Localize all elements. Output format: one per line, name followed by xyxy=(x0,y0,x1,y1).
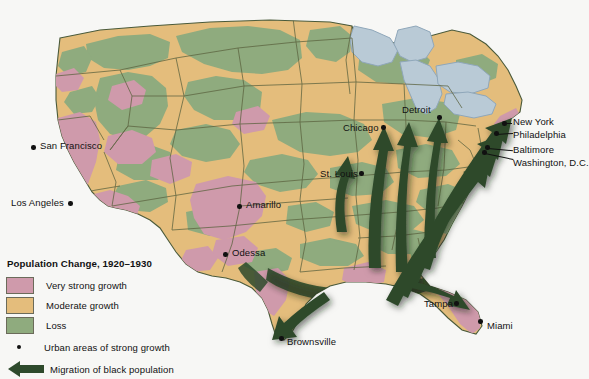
city-label-miami: Miami xyxy=(487,321,513,331)
city-dot-detroit xyxy=(437,115,442,120)
city-label-new-york: New York xyxy=(513,117,554,127)
city-label-philadelphia: Philadelphia xyxy=(513,130,566,140)
legend-row-migration: Migration of black population xyxy=(6,360,230,378)
swatch-moderate-growth xyxy=(6,297,34,314)
city-label-washington-dc: Washington, D.C. xyxy=(513,158,589,168)
city-leader-new-york xyxy=(504,123,512,124)
city-label-brownsville: Brownsville xyxy=(287,337,336,347)
city-label-odessa: Odessa xyxy=(232,248,265,258)
legend-label-urban-areas: Urban areas of strong growth xyxy=(44,342,170,353)
city-dot-chicago xyxy=(381,125,386,130)
city-label-st-louis: St. Louis xyxy=(320,169,358,179)
legend-dot-symbol xyxy=(6,345,32,350)
city-dot-st-louis xyxy=(359,171,364,176)
city-dot-amarillo xyxy=(237,204,242,209)
left-arrow-icon xyxy=(6,361,46,377)
legend-label-migration: Migration of black population xyxy=(50,364,174,375)
legend-row-urban-areas: Urban areas of strong growth xyxy=(6,338,230,356)
city-label-tampa: Tampa xyxy=(424,299,453,309)
legend-row-moderate-growth: Moderate growth xyxy=(6,296,230,314)
legend-label-moderate-growth: Moderate growth xyxy=(46,300,119,311)
legend-row-loss: Loss xyxy=(6,316,230,334)
city-label-los-angeles: Los Angeles xyxy=(11,198,64,208)
city-label-amarillo: Amarillo xyxy=(246,200,281,210)
city-label-san-francisco: San Francisco xyxy=(40,141,102,151)
legend-row-very-strong-growth: Very strong growth xyxy=(6,276,230,294)
legend-title: Population Change, 1920–1930 xyxy=(7,258,230,269)
swatch-loss xyxy=(6,317,34,334)
city-dot-odessa xyxy=(223,252,228,257)
city-dot-los-angeles xyxy=(68,201,73,206)
city-label-baltimore: Baltimore xyxy=(513,145,554,155)
city-dot-san-francisco xyxy=(31,145,36,150)
city-dot-miami xyxy=(478,319,483,324)
city-label-chicago: Chicago xyxy=(343,123,379,133)
legend-arrow-symbol xyxy=(6,361,46,377)
city-label-detroit: Detroit xyxy=(402,105,431,115)
map-legend: Population Change, 1920–1930 Very strong… xyxy=(6,258,230,379)
city-dot-tampa xyxy=(454,301,459,306)
swatch-very-strong-growth xyxy=(6,277,34,294)
city-dot-brownsville xyxy=(279,336,284,341)
legend-label-very-strong-growth: Very strong growth xyxy=(46,280,127,291)
legend-label-loss: Loss xyxy=(46,320,66,331)
